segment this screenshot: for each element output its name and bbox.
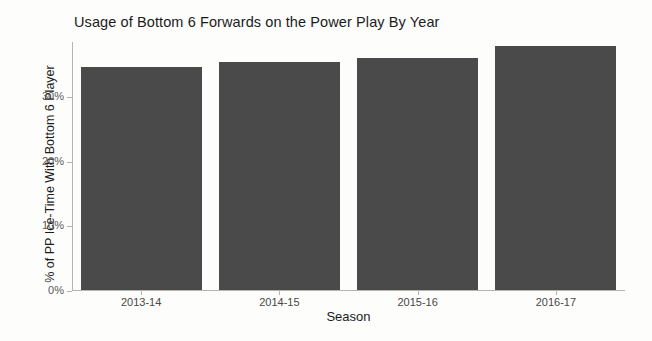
y-tick-label: 20%	[4, 155, 64, 167]
x-tick-mark	[556, 291, 557, 295]
bar	[219, 62, 340, 290]
x-tick-mark	[418, 291, 419, 295]
y-tick-mark	[67, 162, 72, 163]
bar-chart: Usage of Bottom 6 Forwards on the Power …	[0, 0, 652, 341]
x-axis-title: Season	[72, 309, 625, 324]
x-tick-label: 2013-14	[81, 296, 201, 308]
plot-area: 0%10%20%30% 2013-142014-152015-162016-17	[72, 42, 625, 291]
y-tick-label: 10%	[4, 219, 64, 231]
y-tick-label: 0%	[4, 284, 64, 296]
y-tick-label: 30%	[4, 90, 64, 102]
x-tick-label: 2016-17	[496, 296, 616, 308]
bar	[357, 58, 478, 290]
bar	[81, 67, 202, 290]
x-tick-label: 2015-16	[358, 296, 478, 308]
x-tick-mark	[141, 291, 142, 295]
x-tick-mark	[279, 291, 280, 295]
chart-title: Usage of Bottom 6 Forwards on the Power …	[74, 14, 439, 30]
x-axis-line	[72, 290, 625, 291]
y-axis-line	[72, 42, 73, 291]
y-axis-title: % of PP Ice-Time With Bottom 6 Player	[43, 29, 57, 319]
x-tick-label: 2014-15	[219, 296, 339, 308]
y-tick-mark	[67, 97, 72, 98]
y-tick-mark	[67, 226, 72, 227]
y-tick-mark	[67, 291, 72, 292]
bar	[495, 46, 616, 290]
